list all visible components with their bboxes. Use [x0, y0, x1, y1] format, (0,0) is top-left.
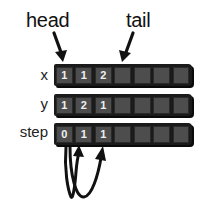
- array-cell: 0: [56, 126, 73, 143]
- tail-pointer-arrow-icon: [119, 33, 133, 62]
- array-y: 1 2 1: [54, 94, 192, 116]
- array-cell: [173, 97, 190, 114]
- array-cell: [134, 97, 151, 114]
- array-cell: 1: [95, 126, 112, 143]
- array-cell: 1: [56, 97, 73, 114]
- array-cell: [114, 126, 131, 143]
- array-cell: [173, 126, 190, 143]
- array-cell: 1: [95, 97, 112, 114]
- head-pointer-arrow-icon: [54, 33, 67, 62]
- array-cell: 1: [75, 67, 92, 84]
- array-cell: [153, 97, 170, 114]
- array-cell: 2: [75, 97, 92, 114]
- array-cell: [153, 67, 170, 84]
- row-label-y: y: [41, 96, 49, 112]
- row-label-x: x: [41, 67, 49, 83]
- array-cell: 1: [75, 126, 92, 143]
- array-cell: 1: [56, 67, 73, 84]
- array-cell: [114, 97, 131, 114]
- row-label-step: step: [20, 124, 48, 140]
- array-cell: [114, 67, 131, 84]
- array-cell: [173, 67, 190, 84]
- array-cell: [153, 126, 170, 143]
- array-cell: 2: [95, 67, 112, 84]
- array-cell: [134, 67, 151, 84]
- array-x: 1 1 2: [54, 64, 192, 86]
- array-cell: [134, 126, 151, 143]
- array-step: 0 1 1: [54, 123, 192, 145]
